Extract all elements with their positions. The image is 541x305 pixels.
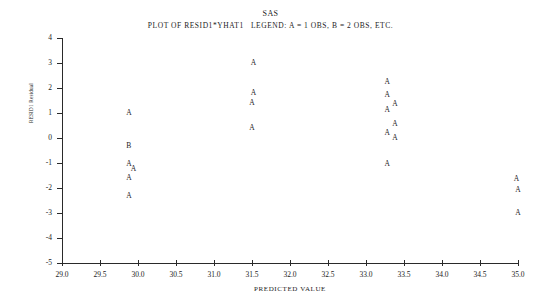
data-point-marker: A xyxy=(391,134,399,142)
x-tick-label: 32.5 xyxy=(308,270,348,279)
x-tick-label: 30.5 xyxy=(156,270,196,279)
y-tick-label: -5 xyxy=(36,259,52,267)
y-tick-mark xyxy=(57,163,63,164)
x-tick-mark xyxy=(366,260,367,266)
plot-caption: PLOT OF RESID1*YHAT1 LEGEND: A = 1 OBS, … xyxy=(0,21,541,30)
x-tick-label: 32.0 xyxy=(270,270,310,279)
y-tick-mark xyxy=(57,138,63,139)
y-tick-mark xyxy=(57,188,63,189)
x-tick-label: 33.0 xyxy=(346,270,386,279)
x-tick-label: 31.0 xyxy=(194,270,234,279)
x-tick-label: 31.5 xyxy=(232,270,272,279)
y-tick-label: -2 xyxy=(36,184,52,192)
x-tick-mark xyxy=(252,260,253,266)
y-axis-title: RESID1 Residual xyxy=(28,68,34,138)
x-tick-mark xyxy=(290,260,291,266)
x-axis-title: PREDICTED VALUE xyxy=(62,285,518,293)
x-tick-label: 29.5 xyxy=(80,270,120,279)
data-point-marker: A xyxy=(125,109,133,117)
data-point-marker: A xyxy=(250,89,258,97)
x-tick-mark xyxy=(176,260,177,266)
x-tick-mark xyxy=(404,260,405,266)
x-tick-label: 34.0 xyxy=(422,270,462,279)
y-tick-label: 3 xyxy=(36,59,52,67)
x-tick-mark xyxy=(100,260,101,266)
x-tick-mark xyxy=(328,260,329,266)
data-point-marker: A xyxy=(125,192,133,200)
sas-system-title: SAS xyxy=(0,9,541,18)
data-point-marker: A xyxy=(129,165,137,173)
x-tick-mark xyxy=(518,260,519,266)
x-tick-mark xyxy=(442,260,443,266)
x-tick-mark xyxy=(480,260,481,266)
y-tick-mark xyxy=(57,238,63,239)
y-tick-mark xyxy=(57,63,63,64)
y-tick-label: -4 xyxy=(36,234,52,242)
data-point-marker: B xyxy=(125,142,133,150)
y-tick-label: 0 xyxy=(36,134,52,142)
data-point-marker: A xyxy=(383,106,391,114)
x-tick-mark xyxy=(62,260,63,266)
y-tick-label: 2 xyxy=(36,84,52,92)
data-point-marker: A xyxy=(514,186,522,194)
data-point-marker: A xyxy=(391,100,399,108)
x-tick-mark xyxy=(138,260,139,266)
data-point-marker: A xyxy=(250,59,258,67)
x-tick-label: 30.0 xyxy=(118,270,158,279)
sas-plot-output: SAS PLOT OF RESID1*YHAT1 LEGEND: A = 1 O… xyxy=(0,0,541,305)
x-tick-label: 33.5 xyxy=(384,270,424,279)
data-point-marker: A xyxy=(125,174,133,182)
y-tick-mark xyxy=(57,213,63,214)
y-axis-line xyxy=(62,38,63,263)
y-tick-label: -1 xyxy=(36,159,52,167)
x-tick-label: 34.5 xyxy=(460,270,500,279)
x-tick-label: 35.0 xyxy=(498,270,538,279)
y-tick-mark xyxy=(57,38,63,39)
x-tick-label: 29.0 xyxy=(42,270,82,279)
y-tick-label: -3 xyxy=(36,209,52,217)
data-point-marker: A xyxy=(391,120,399,128)
y-tick-mark xyxy=(57,113,63,114)
y-tick-mark xyxy=(57,88,63,89)
x-tick-mark xyxy=(214,260,215,266)
data-point-marker: A xyxy=(512,175,520,183)
data-point-marker: A xyxy=(248,124,256,132)
data-point-marker: A xyxy=(514,209,522,217)
y-tick-label: 1 xyxy=(36,109,52,117)
y-tick-label: 4 xyxy=(36,34,52,42)
data-point-marker: A xyxy=(248,99,256,107)
data-point-marker: A xyxy=(383,91,391,99)
data-point-marker: A xyxy=(383,160,391,168)
data-point-marker: A xyxy=(383,78,391,86)
